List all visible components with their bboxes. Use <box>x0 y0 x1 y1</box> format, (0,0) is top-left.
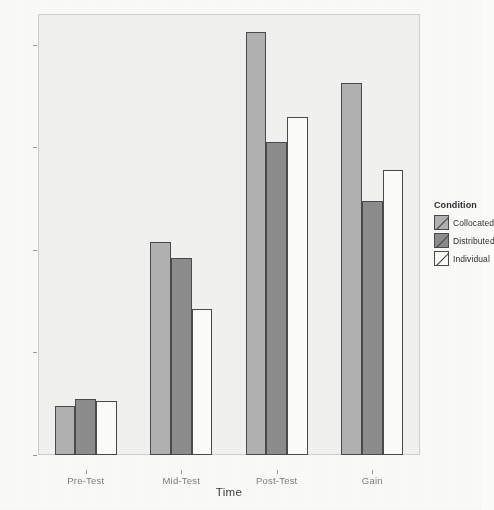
y-axis-tick-mark <box>33 455 37 456</box>
bar-individual <box>287 117 308 455</box>
legend-label-distributed: Distributed <box>453 236 494 246</box>
bar-group <box>246 14 308 455</box>
bar-individual <box>383 170 404 455</box>
bar-collocated <box>55 406 76 455</box>
legend-title: Condition <box>434 200 494 210</box>
y-axis-tick-mark <box>33 352 37 353</box>
legend-key-distributed <box>434 233 449 248</box>
x-axis-tick-label: Gain <box>312 475 432 486</box>
x-axis-tick-mark <box>372 470 373 474</box>
x-axis-label: Time <box>216 486 242 498</box>
legend-label-individual: Individual <box>453 254 490 264</box>
plot-area: 02468Pre-TestMid-TestPost-TestGain <box>38 14 420 455</box>
bar-distributed <box>75 399 96 455</box>
legend-item-individual: Individual <box>434 251 494 266</box>
legend-item-distributed: Distributed <box>434 233 494 248</box>
y-axis-tick-mark <box>33 45 37 46</box>
y-axis-tick-mark <box>33 147 37 148</box>
x-axis-tick-mark <box>277 470 278 474</box>
legend-item-collocated: Collocated <box>434 215 494 230</box>
bar-group <box>341 14 403 455</box>
x-axis-tick-mark <box>181 470 182 474</box>
bar-individual <box>96 401 117 455</box>
bar-group <box>150 14 212 455</box>
bar-distributed <box>362 201 383 455</box>
legend: Condition Collocated Distributed Individ… <box>434 200 494 269</box>
legend-key-collocated <box>434 215 449 230</box>
bar-collocated <box>341 83 362 455</box>
y-axis-tick-mark <box>33 250 37 251</box>
legend-label-collocated: Collocated <box>453 218 494 228</box>
bar-collocated <box>246 32 267 455</box>
bar-collocated <box>150 242 171 455</box>
legend-key-individual <box>434 251 449 266</box>
x-axis-tick-mark <box>86 470 87 474</box>
bar-distributed <box>266 142 287 455</box>
bar-individual <box>192 309 213 455</box>
bar-group <box>55 14 117 455</box>
bar-distributed <box>171 258 192 455</box>
